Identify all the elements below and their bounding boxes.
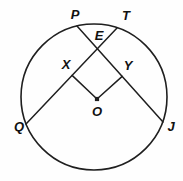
point-label-O: O [92, 104, 102, 119]
chord-QT [26, 28, 117, 124]
circle-chords-diagram: PTEXYOQJ [0, 0, 183, 181]
point-label-X: X [61, 57, 72, 72]
point-label-E: E [95, 28, 104, 43]
chord-PJ [77, 26, 163, 122]
diagram-canvas: PTEXYOQJ [0, 0, 183, 181]
point-label-Y: Y [124, 58, 134, 73]
point-label-Q: Q [14, 119, 24, 134]
center-point-dot [95, 97, 99, 101]
point-label-T: T [122, 8, 131, 23]
segment-OX [72, 75, 97, 99]
point-label-P: P [71, 7, 80, 22]
segment-OY [97, 76, 122, 99]
point-label-J: J [167, 119, 175, 134]
